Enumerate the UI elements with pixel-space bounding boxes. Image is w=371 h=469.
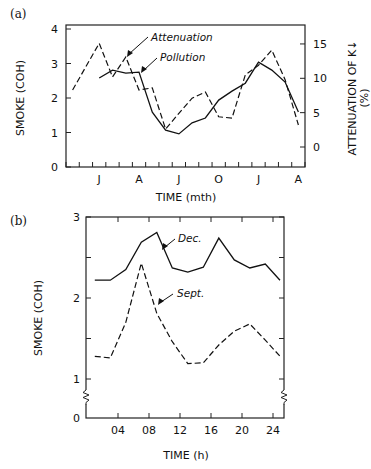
y-tick-label-a: 1 (51, 127, 58, 140)
y-tick-label-b: 2 (73, 292, 80, 305)
x-axis-title-a: TIME (mth) (155, 191, 216, 204)
arrow-attenuation (129, 37, 148, 54)
x-tick-label-b: 12 (173, 424, 187, 437)
y-tick-label-b: 1 (73, 373, 80, 386)
chart-b: (b) 0408121620240123 SMOKE (COH) TIME (h… (10, 211, 288, 462)
x-tick-label-a: J (97, 173, 101, 186)
y-tick-label-a: 2 (51, 92, 58, 105)
y-tick-label-a: 3 (51, 58, 58, 71)
arrowhead-dec-icon (162, 243, 168, 250)
x-tick-label-a: A (295, 173, 303, 186)
axes-b: 0408121620240123 (73, 211, 284, 437)
x-tick-label-a: O (214, 173, 223, 186)
left-axis-a: 01234 (51, 23, 71, 174)
x-tick-label-b: 16 (204, 424, 218, 437)
y-axis-title-b: SMOKE (COH) (32, 280, 45, 356)
y2-axis-unit-a: (%) (358, 88, 371, 107)
arrowhead-sept-icon (158, 298, 164, 305)
plot-frame-a (66, 25, 305, 167)
bottom-axis-a: JAJOJA (66, 162, 305, 186)
y-axis-title-a: SMOKE (COH) (14, 60, 27, 136)
panel-label-b: (b) (10, 214, 27, 228)
annotation-sept: Sept. (177, 287, 204, 299)
annotation-dec: Dec. (178, 232, 202, 244)
figure: (a) 01234 051015 JAJOJA SMOKE (COH) ATTE… (0, 0, 371, 469)
y2-tick-label-a: 15 (313, 38, 327, 51)
x-tick-label-a: J (176, 173, 180, 186)
y-tick-label-b: 3 (73, 211, 80, 224)
x-tick-label-b: 04 (111, 424, 125, 437)
x-tick-label-b: 08 (142, 424, 156, 437)
y-tick-label-a: 0 (51, 161, 58, 174)
y-tick-label-b: 0 (73, 412, 80, 425)
x-tick-label-b: 20 (235, 424, 249, 437)
x-tick-label-b: 24 (266, 424, 280, 437)
plot-frame-b (86, 217, 284, 418)
x-axis-title-b: TIME (h) (162, 449, 208, 462)
right-axis-a: 051015 (300, 38, 327, 154)
y2-tick-label-a: 10 (313, 72, 327, 85)
pollution-line (99, 62, 298, 134)
x-tick-label-a: A (135, 173, 143, 186)
sept-line (95, 263, 280, 363)
chart-a: (a) 01234 051015 JAJOJA SMOKE (COH) ATTE… (10, 7, 371, 204)
arrowhead-pollution-icon (141, 66, 147, 73)
y2-tick-label-a: 0 (313, 141, 320, 154)
panel-label-a: (a) (10, 7, 27, 21)
annotation-pollution: Pollution (160, 51, 205, 63)
x-tick-label-a: J (256, 173, 260, 186)
arrow-pollution (144, 58, 157, 70)
y-tick-label-a: 4 (51, 23, 58, 36)
annotation-attenuation: Attenuation (150, 31, 213, 43)
y2-tick-label-a: 5 (313, 107, 320, 120)
